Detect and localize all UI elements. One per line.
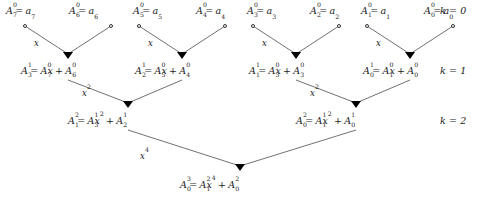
node-open-a3	[251, 24, 256, 29]
node-open-a1	[365, 24, 370, 29]
merge-node-k3-0	[235, 164, 245, 171]
term-k0-6: A01=a1	[361, 6, 390, 16]
term-k0-1: A06=a6	[69, 6, 98, 16]
merge-node-k1-1	[177, 52, 187, 59]
edge-label-k2-0: x4	[140, 152, 149, 161]
merge-node-k2-1	[351, 101, 361, 108]
node-open-a2	[337, 24, 342, 29]
level-label-k1: k = 1	[440, 66, 466, 76]
node-open-a0	[451, 24, 456, 29]
term-k1-0: A13=A07x+A06	[21, 66, 72, 76]
merge-node-k1-3	[405, 52, 415, 59]
edge-label-k0-2: x	[262, 39, 267, 48]
node-open-a4	[223, 24, 228, 29]
term-k0-2: A05=a5	[133, 6, 162, 16]
term-k0-4: A03=a3	[247, 6, 276, 16]
node-open-a5	[137, 24, 142, 29]
term-k2-0: A21=A13x2+A12	[68, 116, 123, 126]
edge-label-k1-1: x2	[310, 89, 319, 98]
term-k1-2: A11=A03x+A03	[249, 66, 300, 76]
edge-label-k0-3: x	[376, 39, 381, 48]
level-label-k0: k = 0	[440, 6, 466, 16]
term-k0-0: A07=a7	[6, 6, 35, 16]
term-k1-3: A10=A01x+A00	[363, 66, 414, 76]
edge-label-k0-0: x	[34, 39, 39, 48]
term-k3-0: A30=A21x4+A20	[180, 180, 235, 190]
node-open-a6	[109, 24, 114, 29]
term-k0-5: A02=a2	[310, 6, 339, 16]
edge-label-k1-0: x2	[82, 89, 91, 98]
node-open-a7	[23, 24, 28, 29]
merge-node-k1-2	[291, 52, 301, 59]
edge-lines	[0, 0, 477, 202]
merge-node-k2-0	[123, 101, 133, 108]
term-k2-1: A20=A11x2+A10	[296, 116, 351, 126]
term-k1-1: A12=A05x+A04	[135, 66, 186, 76]
merge-node-k1-0	[63, 52, 73, 59]
term-k0-3: A04=a4	[196, 6, 225, 16]
figure-canvas: A07=a7 A06=a6 A05=a5 A04=a4 A03=a3 A02=a…	[0, 0, 477, 202]
level-label-k2: k = 2	[440, 116, 466, 126]
edge-label-k0-1: x	[148, 39, 153, 48]
